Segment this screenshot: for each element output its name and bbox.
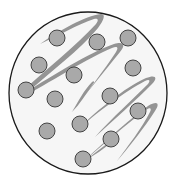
particle-3 [120, 30, 136, 46]
particle-2 [89, 34, 105, 50]
particle-11 [72, 116, 88, 132]
particle-1 [49, 30, 65, 46]
diagram-canvas [0, 0, 174, 188]
particle-14 [75, 151, 91, 167]
cell-diagram [0, 0, 174, 188]
particle-9 [102, 88, 118, 104]
particle-12 [39, 123, 55, 139]
particle-13 [103, 131, 119, 147]
particle-6 [125, 60, 141, 76]
particle-7 [18, 82, 34, 98]
particle-10 [130, 103, 146, 119]
particle-8 [47, 91, 63, 107]
particle-4 [31, 57, 47, 73]
particle-5 [66, 67, 82, 83]
